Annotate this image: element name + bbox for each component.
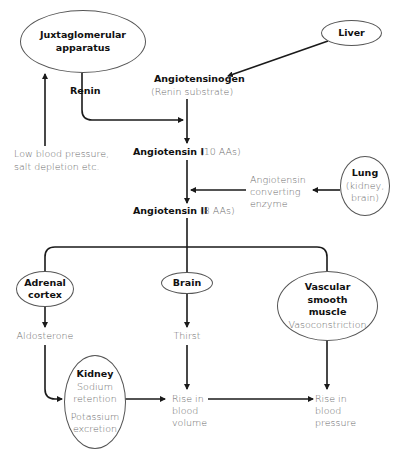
angiotensin2-label: Angiotensin II <box>133 205 208 218</box>
kidney-sub-1: Sodium <box>77 381 113 394</box>
vascular-label-1: Vascular <box>305 281 351 294</box>
ace-label-2: converting <box>250 186 301 199</box>
arrow-liver-to-angiotensinogen <box>228 41 328 76</box>
liver-label: Liver <box>338 27 365 40</box>
rise-pressure-label-2: blood <box>315 405 341 418</box>
kidney-label: Kidney <box>77 368 114 381</box>
juxtaglomerular-label-1: Juxtaglomerular <box>40 29 126 42</box>
adrenal-label-2: cortex <box>28 289 62 302</box>
rise-pressure-label-1: Rise in <box>315 393 347 406</box>
thirst-label: Thirst <box>173 330 200 343</box>
low-bp-label-2: salt depletion etc. <box>14 161 100 174</box>
vascular-sub: Vasoconstriction <box>288 319 366 332</box>
node-brain: Brain <box>161 272 213 294</box>
renin-label: Renin <box>70 85 101 98</box>
lung-label: Lung <box>352 167 378 180</box>
rise-volume-label-2: blood <box>172 405 198 418</box>
aldosterone-label: Aldosterone <box>17 330 74 343</box>
vascular-label-2: smooth <box>308 294 348 307</box>
branch-bar <box>45 247 327 271</box>
node-adrenal-cortex: Adrenal cortex <box>16 271 74 307</box>
angiotensin1-label: Angiotensin I <box>133 146 204 159</box>
lung-sub-2: brain) <box>351 192 379 205</box>
node-liver: Liver <box>321 20 382 46</box>
node-lung: Lung (kidney, brain) <box>340 156 390 216</box>
adrenal-label-1: Adrenal <box>24 277 66 290</box>
angiotensin2-aas-label: (8 AAs) <box>200 205 235 218</box>
low-bp-label-1: Low blood pressure, <box>14 148 109 161</box>
node-juxtaglomerular: Juxtaglomerular apparatus <box>20 10 146 73</box>
kidney-sub-2: retention <box>73 393 116 406</box>
raas-diagram: Juxtaglomerular apparatus Liver Renin An… <box>0 0 393 463</box>
vascular-label-3: muscle <box>309 306 347 319</box>
rise-volume-label-1: Rise in <box>172 393 204 406</box>
rise-volume-label-3: volume <box>172 417 207 430</box>
lung-sub-1: (kidney, <box>346 180 384 193</box>
brain-label: Brain <box>173 277 201 290</box>
kidney-sub-4: excretion <box>73 423 117 436</box>
node-vascular-smooth-muscle: Vascular smooth muscle Vasoconstriction <box>277 271 378 341</box>
arrow-aldosterone-to-kidney <box>45 345 62 399</box>
angiotensinogen-label: Angiotensinogen <box>154 73 245 86</box>
renin-substrate-label: (Renin substrate) <box>151 86 233 99</box>
rise-pressure-label-3: pressure <box>315 417 356 430</box>
ace-label-3: enzyme <box>250 198 288 211</box>
node-kidney: Kidney Sodium retention Potassium excret… <box>64 355 126 449</box>
juxtaglomerular-label-2: apparatus <box>56 42 110 55</box>
ace-label-1: Angiotensin <box>250 174 306 187</box>
kidney-sub-3: Potassium <box>71 411 120 424</box>
angiotensin1-aas-label: (10 AAs) <box>200 146 241 159</box>
